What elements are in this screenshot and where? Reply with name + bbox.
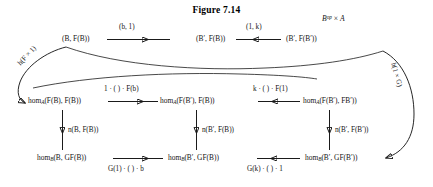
middle-node-3-rest: (F(B′), FB′)) xyxy=(319,96,356,105)
middle-node-1: homA(F(B), F(B)) xyxy=(28,97,81,106)
corner-label-A: A xyxy=(340,14,345,23)
middle-node-3: homA(F(B′), FB′)) xyxy=(303,97,357,106)
top-node-3: (B′, F(B′)) xyxy=(286,35,317,42)
vertical-arrow-3-label: n(B′, F(B′)) xyxy=(335,127,369,134)
bottom-node-3-hom: hom xyxy=(305,153,318,162)
bottom-node-1-hom: hom xyxy=(37,153,50,162)
figure-diagram: Figure 7.14 xyxy=(0,0,433,187)
category-corner-label: Bop × A xyxy=(322,15,345,23)
middle-node-2-hom: hom xyxy=(160,96,173,105)
bottom-node-3-rest: (B′, GF(B′)) xyxy=(321,153,357,162)
middle-node-2: homA(F(B′), F(B)) xyxy=(160,97,215,106)
top-arrow-2-label: (1, k) xyxy=(246,24,262,31)
bottom-node-2-rest: (B′, GF(B)) xyxy=(184,153,218,162)
middle-node-1-hom: hom xyxy=(28,96,41,105)
bottom-node-1: homB(B, GF(B)) xyxy=(37,154,86,163)
vertical-arrow-1-label: n(B, F(B)) xyxy=(68,127,98,134)
bottom-node-2: homB(B′, GF(B)) xyxy=(168,154,219,163)
bottom-arrow-1-label: G(1) · ( ) · b xyxy=(108,166,144,173)
swoosh-upper xyxy=(66,47,383,69)
bottom-arrow-2-label: G(k) · ( ) · 1 xyxy=(247,166,283,173)
middle-node-1-rest: (F(B), F(B)) xyxy=(44,96,81,105)
bottom-node-3: homB(B′, GF(B′)) xyxy=(305,154,357,163)
top-node-2: (B′, F(B)) xyxy=(196,35,225,42)
middle-node-2-rest: (F(B′), F(B)) xyxy=(176,96,214,105)
vertical-arrow-2-label: n(B′, F(B)) xyxy=(202,127,234,134)
corner-label-op: op xyxy=(327,14,332,20)
middle-arrow-2-label: k · ( ) · F(1) xyxy=(253,86,288,93)
bottom-node-1-rest: (B, GF(B)) xyxy=(53,153,86,162)
middle-node-3-hom: hom xyxy=(303,96,316,105)
middle-arrow-1-label: 1 · ( ) · F(b) xyxy=(104,86,139,93)
bottom-node-2-hom: hom xyxy=(168,153,181,162)
top-arrow-1-label: (b, 1) xyxy=(119,24,135,31)
top-node-1: (B, F(B)) xyxy=(62,35,90,42)
